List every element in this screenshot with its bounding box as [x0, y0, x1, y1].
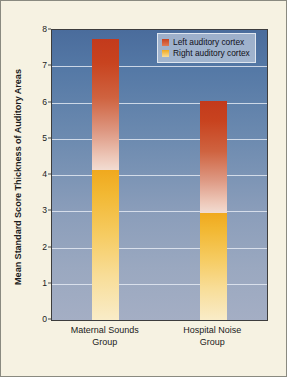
gridline	[52, 284, 267, 285]
x-category-label-line: Maternal Sounds	[50, 325, 160, 337]
x-category-label-line: Group	[50, 337, 160, 349]
x-category-label-line: Group	[157, 337, 267, 349]
y-tick-label: 0	[29, 315, 47, 324]
gridline	[52, 139, 267, 140]
legend-label: Right auditory cortex	[173, 48, 250, 59]
bar	[92, 39, 119, 320]
legend-item: Right auditory cortex	[162, 48, 250, 59]
y-tick-label: 6	[29, 97, 47, 106]
legend-label: Left auditory cortex	[173, 37, 244, 48]
gridline	[52, 175, 267, 176]
bar-segment	[92, 170, 119, 320]
y-tick-label: 4	[29, 170, 47, 179]
y-axis-title: Mean Standard Score Thickness of Auditor…	[10, 17, 26, 337]
right-cortex-swatch-icon	[162, 50, 169, 57]
bar	[200, 101, 227, 320]
y-tick-label: 5	[29, 133, 47, 142]
bar-segment	[200, 101, 227, 213]
y-tick-label: 2	[29, 242, 47, 251]
bar-segment	[200, 213, 227, 320]
gridline	[52, 248, 267, 249]
y-tick-label: 3	[29, 206, 47, 215]
y-tick-label: 1	[29, 278, 47, 287]
y-axis-tick-labels: 012345678	[29, 29, 47, 319]
bar-segment	[92, 39, 119, 170]
legend-item: Left auditory cortex	[162, 37, 250, 48]
y-tick-label: 8	[29, 25, 47, 34]
x-axis-category-labels: Maternal SoundsGroupHospital NoiseGroup	[51, 325, 268, 365]
y-tick-label: 7	[29, 61, 47, 70]
gridline	[52, 66, 267, 67]
plot-area: Left auditory cortexRight auditory corte…	[51, 29, 268, 321]
left-cortex-swatch-icon	[162, 39, 169, 46]
x-category-label: Hospital NoiseGroup	[157, 325, 267, 348]
x-category-label-line: Hospital Noise	[157, 325, 267, 337]
x-category-label: Maternal SoundsGroup	[50, 325, 160, 348]
chart-legend: Left auditory cortexRight auditory corte…	[157, 33, 256, 63]
gridline	[52, 211, 267, 212]
gridline	[52, 103, 267, 104]
chart-figure: Mean Standard Score Thickness of Auditor…	[0, 0, 287, 377]
